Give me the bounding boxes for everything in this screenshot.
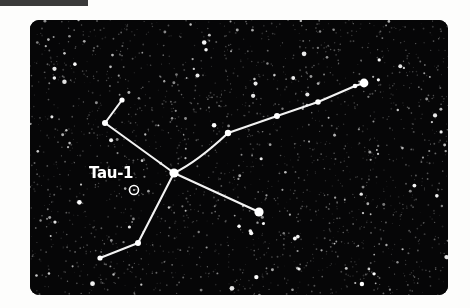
star-node bbox=[97, 255, 102, 260]
constellation-line bbox=[105, 100, 122, 123]
star-chart-panel bbox=[30, 20, 448, 295]
star-node bbox=[360, 79, 369, 88]
star-node bbox=[119, 97, 124, 102]
constellation-line bbox=[174, 173, 259, 212]
cropped-header-bar bbox=[0, 0, 88, 6]
constellation-line bbox=[138, 173, 174, 243]
star-node bbox=[225, 130, 231, 136]
page-canvas: Tau-1 bbox=[0, 0, 470, 308]
constellation-line bbox=[318, 86, 355, 102]
star-node bbox=[353, 84, 358, 89]
constellation-line bbox=[228, 116, 277, 133]
star-node bbox=[274, 113, 280, 119]
constellation-line bbox=[105, 123, 174, 173]
target-markers bbox=[130, 186, 139, 195]
star-node bbox=[254, 207, 263, 216]
constellation-stars bbox=[97, 79, 368, 261]
constellation-line bbox=[277, 102, 318, 116]
star-node bbox=[135, 240, 141, 246]
constellation-lines bbox=[100, 83, 364, 258]
star-node bbox=[102, 120, 108, 126]
constellation-line bbox=[174, 133, 228, 173]
constellation-overlay bbox=[30, 20, 448, 295]
tau-1-center-dot bbox=[133, 189, 135, 191]
star-node bbox=[169, 168, 178, 177]
star-node bbox=[315, 99, 321, 105]
constellation-line bbox=[100, 243, 138, 258]
